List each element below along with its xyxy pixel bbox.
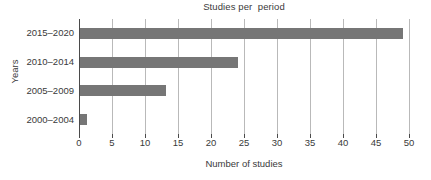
bar — [80, 85, 166, 96]
x-axis-tick-label: 20 — [196, 137, 226, 148]
y-axis-tick-label: 2015–2020 — [26, 27, 74, 38]
chart-title: Studies per period — [79, 1, 409, 12]
x-axis-title: Number of studies — [79, 158, 409, 169]
x-axis-tick-label: 15 — [163, 137, 193, 148]
x-axis-tick-label: 30 — [262, 137, 292, 148]
x-axis-tick-label: 10 — [130, 137, 160, 148]
y-axis-tick-label: 2000–2004 — [26, 114, 74, 125]
x-axis-tick-label: 45 — [361, 137, 391, 148]
bar — [80, 57, 238, 68]
bar — [80, 28, 403, 39]
x-axis-tick-label: 5 — [97, 137, 127, 148]
plot-area — [79, 19, 409, 134]
x-axis-tick-label: 0 — [64, 137, 94, 148]
x-axis-tick-label: 50 — [394, 137, 424, 148]
y-axis-tick-label: 2005–2009 — [26, 85, 74, 96]
x-axis-tick-label: 40 — [328, 137, 358, 148]
x-axis-tick-label: 25 — [229, 137, 259, 148]
y-axis-title: Years — [9, 42, 20, 102]
bar-chart: Studies per period 2000–20042005–2009201… — [0, 0, 431, 180]
gridline — [409, 19, 410, 134]
bar — [80, 114, 87, 125]
x-axis-tick-label: 35 — [295, 137, 325, 148]
y-axis-tick-label: 2010–2014 — [26, 56, 74, 67]
